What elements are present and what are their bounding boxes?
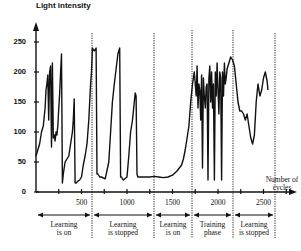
phase-label: Learningis on — [36, 221, 92, 237]
y-tick-label: 200 — [2, 67, 26, 76]
y-tick-label: 50 — [2, 157, 26, 166]
phase-label: Learningis stopped — [92, 221, 154, 237]
x-tick-label: 1500 — [158, 198, 188, 207]
phase-arrows — [38, 213, 273, 218]
phase-label: Learningis stopped — [233, 221, 275, 237]
x-tick-label: 2500 — [249, 198, 279, 207]
y-axis-label: Light intensity — [36, 1, 91, 10]
x-tick-label: 1000 — [112, 198, 142, 207]
y-axis-arrow-icon — [33, 22, 39, 31]
y-tick-label: 250 — [2, 37, 26, 46]
x-tick-label: 500 — [67, 198, 97, 207]
y-tick-label: 150 — [2, 97, 26, 106]
y-tick-label: 100 — [2, 127, 26, 136]
y-tick-label: 0 — [2, 187, 26, 196]
x-tick-label: 2000 — [203, 198, 233, 207]
phase-label: Learningis on — [154, 221, 192, 237]
axes — [33, 22, 297, 195]
chart-container: Light intensity 050100150200250 50010001… — [0, 0, 301, 251]
plot-area — [0, 0, 301, 251]
x-axis-label: Number of cycles — [264, 176, 300, 192]
phase-label: Trainingphase — [192, 221, 233, 237]
